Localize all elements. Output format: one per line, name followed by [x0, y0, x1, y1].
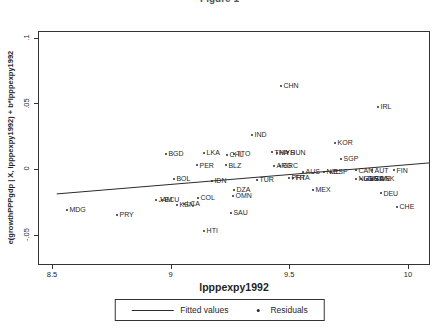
residual-label: ECU — [165, 195, 180, 204]
residual-label: IND — [255, 130, 267, 139]
y-tick-label: .1 — [21, 23, 32, 53]
legend-fitted-line-sample — [131, 310, 173, 311]
residual-label: MDG — [69, 205, 85, 214]
residual-label: PER — [199, 161, 213, 170]
residual-label: LCA — [186, 199, 200, 208]
residual-label: AUT — [375, 166, 389, 175]
x-tick-mark — [171, 265, 172, 269]
legend-fitted-label: Fitted values — [180, 305, 228, 315]
y-tick-label: 0 — [21, 154, 32, 184]
residual-label: TTO — [237, 149, 251, 158]
legend-residual-marker-icon — [256, 309, 259, 312]
x-tick-mark — [289, 265, 290, 269]
residual-label: LKA — [207, 148, 220, 157]
residual-label: DEU — [383, 189, 398, 198]
y-axis-title: e(growthPPPgdp | X, lpppexpy1992) + b*lp… — [5, 28, 16, 268]
legend-residuals-label: Residuals — [270, 305, 307, 315]
residual-label: SAU — [233, 208, 247, 217]
residual-label: CHE — [400, 202, 415, 211]
legend-item-residuals: Residuals — [256, 305, 307, 315]
residual-label: MEX — [316, 185, 331, 194]
residual-label: OMN — [236, 191, 252, 200]
y-tick-mark — [34, 235, 38, 236]
x-axis-title: lpppexpy1992 — [38, 281, 430, 293]
legend-item-fitted: Fitted values — [131, 305, 228, 315]
residual-label: HTI — [207, 226, 218, 235]
residual-label: FIN — [396, 166, 407, 175]
residual-label: IDN — [214, 176, 226, 185]
residual-label: IRL — [381, 102, 392, 111]
x-tick-label: 9.5 — [274, 270, 304, 279]
residual-label: ESP — [334, 167, 348, 176]
x-tick-label: 10 — [393, 270, 423, 279]
plot-frame — [38, 31, 430, 265]
x-tick-label: 8.5 — [37, 270, 67, 279]
x-tick-mark — [52, 265, 53, 269]
y-tick-label: .05 — [21, 88, 32, 118]
residual-label: CHN — [283, 81, 298, 90]
x-tick-label: 9 — [156, 270, 186, 279]
residual-label: COL — [200, 193, 214, 202]
residual-label: TUR — [260, 175, 274, 184]
y-tick-mark — [34, 103, 38, 104]
residual-label: KOR — [338, 138, 353, 147]
figure-title-clip: Figure 1 — [0, 0, 439, 5]
residual-label: BGD — [168, 149, 183, 158]
y-tick-label: -.05 — [21, 220, 32, 250]
residual-label: BLZ — [228, 161, 241, 170]
residual-label: DNK — [380, 174, 395, 183]
legend: Fitted values Residuals — [114, 299, 325, 321]
residual-label: SGP — [344, 154, 359, 163]
x-tick-mark — [408, 265, 409, 269]
residual-label: AUS — [306, 167, 320, 176]
residual-label: PRY — [120, 210, 134, 219]
residual-label: BOL — [176, 174, 190, 183]
y-tick-mark — [34, 38, 38, 39]
figure-title: Figure 1 — [0, 0, 439, 4]
residual-label: HUN — [290, 148, 305, 157]
residual-label: GRC — [283, 161, 299, 170]
y-tick-mark — [34, 169, 38, 170]
